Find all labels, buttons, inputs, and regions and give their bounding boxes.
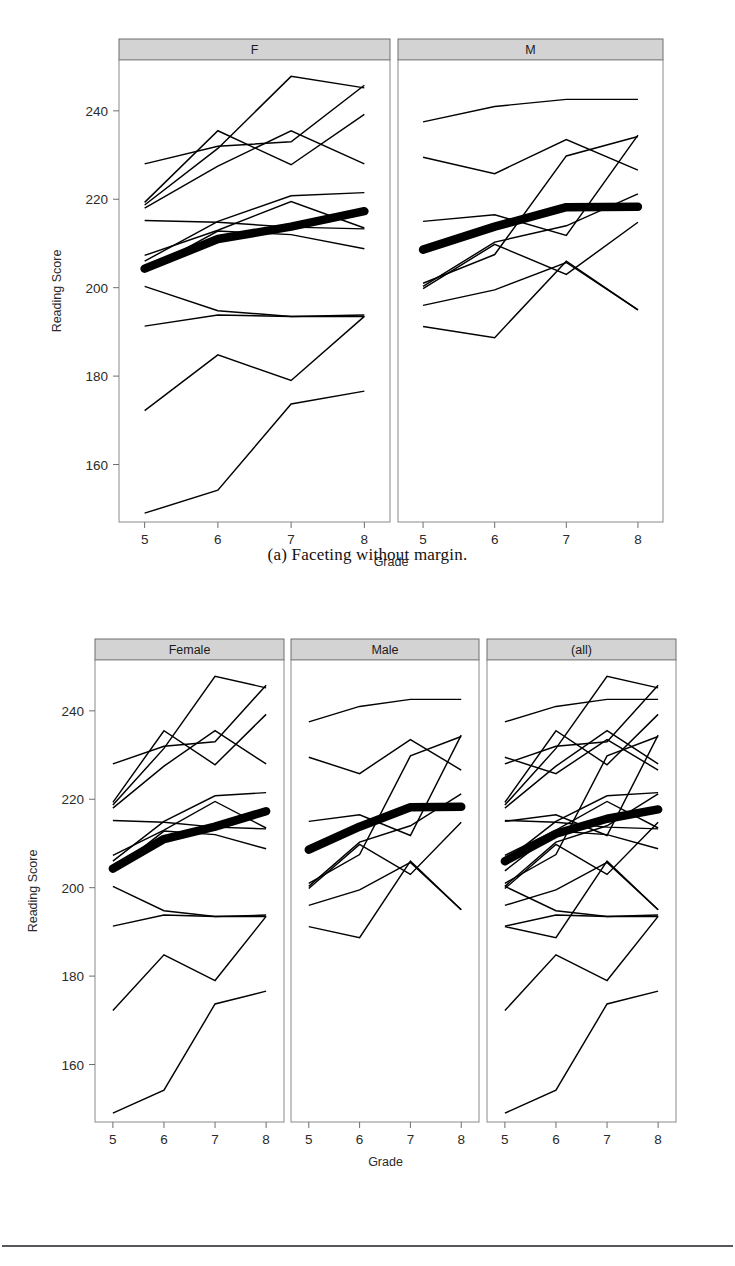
y-axis-title: Reading Score bbox=[26, 850, 40, 933]
x-tick-label: 7 bbox=[211, 1132, 219, 1147]
facet-panel-male: Male5678 bbox=[291, 639, 479, 1147]
y-tick-label: 180 bbox=[61, 969, 84, 984]
y-tick-label: 220 bbox=[61, 792, 84, 807]
facet-panel-m: M5678 bbox=[398, 39, 663, 547]
chart-a-canvas: F5678M5678160180200220240GradeReading Sc… bbox=[0, 0, 735, 580]
x-tick-label: 6 bbox=[356, 1132, 364, 1147]
strip-label: Female bbox=[169, 643, 211, 657]
strip-label: Male bbox=[371, 643, 398, 657]
x-tick-label: 5 bbox=[501, 1132, 509, 1147]
y-tick-label: 160 bbox=[61, 1058, 84, 1073]
y-tick-label: 240 bbox=[61, 704, 84, 719]
figure-a-caption: (a) Faceting without margin. bbox=[0, 545, 735, 565]
x-tick-label: 8 bbox=[457, 1132, 465, 1147]
page-footer-rule bbox=[2, 1245, 733, 1247]
x-tick-label: 5 bbox=[305, 1132, 313, 1147]
y-axis: 160180200220240 bbox=[61, 704, 95, 1073]
y-tick-label: 200 bbox=[61, 881, 84, 896]
x-tick-label: 8 bbox=[654, 1132, 662, 1147]
chart-b-canvas: Female5678Male5678(all)56781601802002202… bbox=[0, 585, 735, 1185]
strip-label: (all) bbox=[571, 643, 592, 657]
y-tick-label: 200 bbox=[85, 281, 108, 296]
strip-label: M bbox=[525, 43, 535, 57]
y-tick-label: 160 bbox=[85, 458, 108, 473]
facet-panel-all: (all)5678 bbox=[487, 639, 676, 1147]
x-tick-label: 8 bbox=[262, 1132, 270, 1147]
strip-label: F bbox=[251, 43, 259, 57]
facet-panel-f: F5678 bbox=[119, 39, 390, 547]
x-tick-label: 5 bbox=[109, 1132, 117, 1147]
x-tick-label: 7 bbox=[603, 1132, 611, 1147]
y-tick-label: 240 bbox=[85, 104, 108, 119]
x-axis-title: Grade bbox=[368, 1155, 403, 1169]
y-tick-label: 220 bbox=[85, 192, 108, 207]
figure-faceting-without-margin: F5678M5678160180200220240GradeReading Sc… bbox=[0, 0, 735, 580]
facet-panel-female: Female5678 bbox=[95, 639, 284, 1147]
x-tick-label: 6 bbox=[160, 1132, 168, 1147]
x-tick-label: 7 bbox=[407, 1132, 415, 1147]
x-tick-label: 6 bbox=[552, 1132, 560, 1147]
y-axis-title: Reading Score bbox=[50, 250, 64, 333]
y-axis: 160180200220240 bbox=[85, 104, 119, 473]
figure-faceting-with-margin: Female5678Male5678(all)56781601802002202… bbox=[0, 585, 735, 1225]
y-tick-label: 180 bbox=[85, 369, 108, 384]
